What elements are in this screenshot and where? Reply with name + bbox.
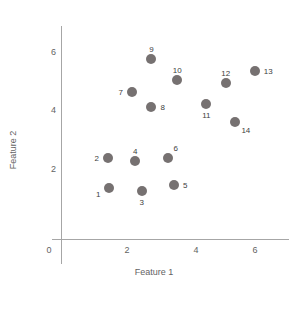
- data-point-label: 7: [0, 88, 123, 97]
- data-point: [172, 75, 182, 85]
- data-point-label: 1: [0, 190, 100, 199]
- data-point-label: 9: [131, 45, 171, 54]
- data-point-label: 11: [186, 111, 226, 120]
- data-point-label: 3: [122, 198, 162, 207]
- data-point: [130, 156, 140, 166]
- data-point: [103, 153, 113, 163]
- data-point-label: 14: [241, 126, 250, 135]
- data-point-label: 2: [0, 154, 99, 163]
- plot-area: 1234567891011121314: [0, 0, 308, 312]
- data-point: [169, 180, 179, 190]
- data-point: [127, 87, 137, 97]
- data-point-label: 12: [206, 69, 246, 78]
- data-point-label: 10: [157, 66, 197, 75]
- data-point-label: 6: [174, 144, 178, 153]
- data-point: [250, 66, 260, 76]
- data-point-label: 8: [160, 103, 164, 112]
- data-point: [146, 54, 156, 64]
- data-point: [104, 183, 114, 193]
- data-point: [146, 102, 156, 112]
- data-point: [230, 117, 240, 127]
- data-point: [201, 99, 211, 109]
- data-point: [221, 78, 231, 88]
- scatter-plot-figure: 6 4 2 0 2 4 6 Feature 1 Feature 2 123456…: [0, 0, 308, 312]
- data-point: [163, 153, 173, 163]
- data-point-label: 5: [183, 181, 187, 190]
- data-point-label: 4: [115, 147, 155, 156]
- data-point: [137, 186, 147, 196]
- data-point-label: 13: [264, 67, 273, 76]
